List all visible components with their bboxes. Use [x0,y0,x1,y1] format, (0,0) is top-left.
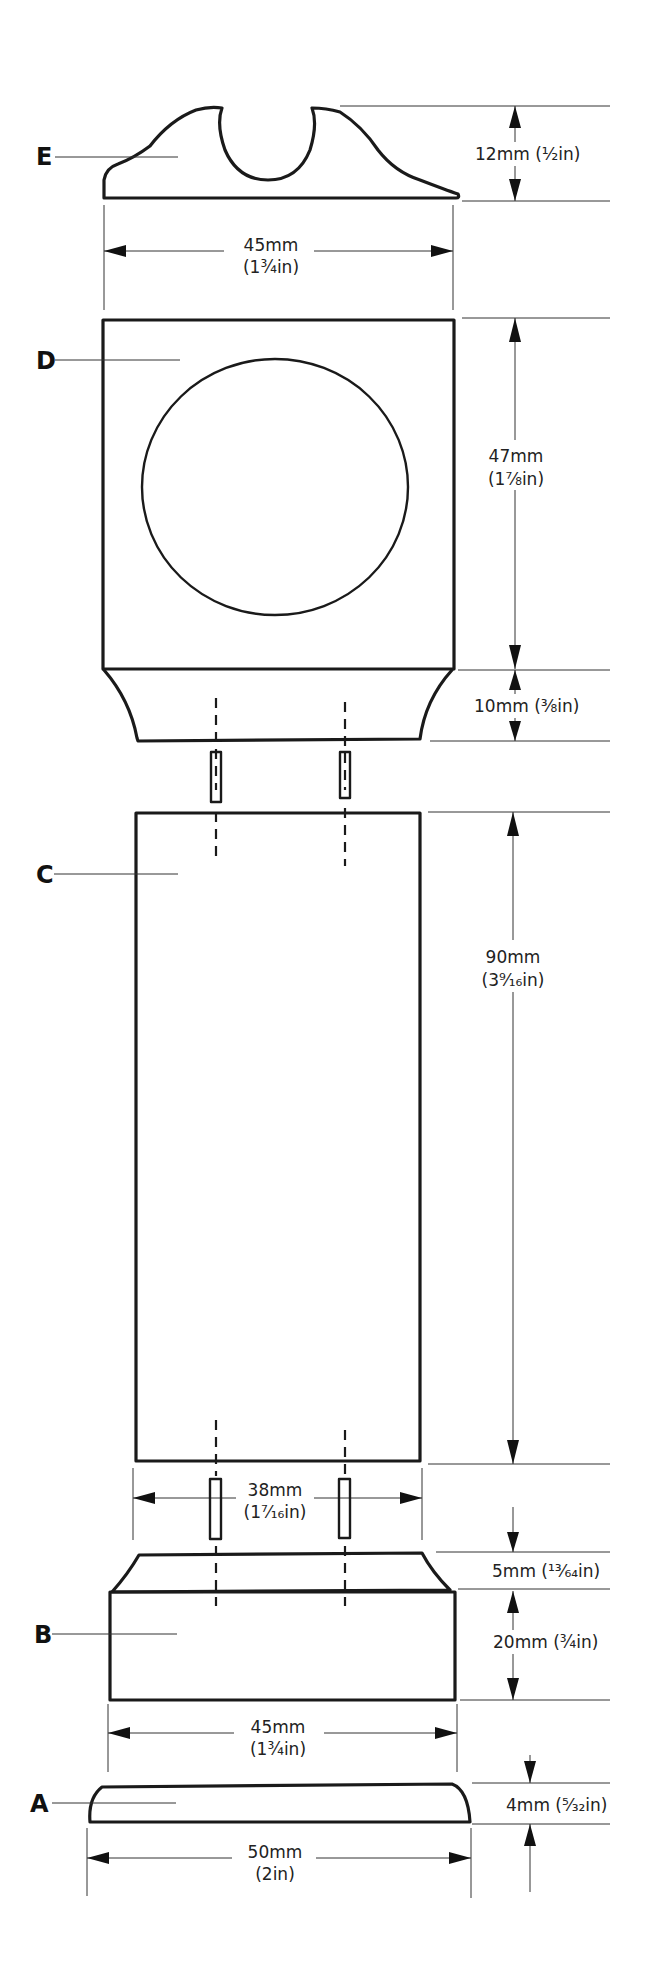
lower-dowels: 38mm (1⁷⁄₁₆in) [210,1420,350,1606]
part-d-block [103,320,454,669]
dim-b-width-in: (1¾in) [250,1739,306,1759]
part-d-flared-base [104,670,452,741]
part-d-circle-face [142,359,408,615]
part-d: D 47mm (1⅞in) 10mm (⅜in) [36,318,610,741]
dim-c-height-in: (3⁹⁄₁₆in) [482,970,545,990]
dim-b-width-mm: 45mm [251,1717,306,1737]
arrow-left-icon [104,245,126,257]
arrow-up-icon [507,812,519,836]
dowel-right-lower [339,1479,350,1538]
part-a: A 4mm (⁵⁄₃₂in) 50mm (2in) [30,1755,610,1898]
part-label-b: B [34,1621,52,1649]
arrow-up-icon [509,670,521,690]
part-c: C 90mm (3⁹⁄₁₆in) [36,812,610,1540]
arrow-down-icon [507,1440,519,1464]
part-e: E 12mm (½in) 45mm (1¾in) [36,106,610,310]
part-label-e: E [36,143,52,171]
part-label-d: D [36,347,56,375]
part-c-column [136,813,420,1461]
arrow-left-icon [133,1492,155,1504]
dim-d-height-in: (1⅞in) [488,469,544,489]
dim-b-height: 20mm (¾in) [493,1632,598,1652]
dim-e-width-mm: 45mm [244,235,299,255]
dim-d-height-mm: 47mm [489,446,544,466]
arrow-up-icon [509,318,521,342]
dim-d-base-height: 10mm (⅜in) [474,696,579,716]
arrow-down-icon [509,179,521,201]
arrow-right-icon [431,245,453,257]
part-label-c: C [36,861,54,889]
dim-c-width-in: (1⁷⁄₁₆in) [244,1502,307,1522]
assembly-diagram: E 12mm (½in) 45mm (1¾in) D 47mm (1⅞in) [0,0,646,1982]
arrow-right-icon [400,1492,422,1504]
arrow-down-icon [507,1532,519,1552]
part-e-outline [104,107,459,198]
dim-a-width-in: (2in) [255,1864,295,1884]
arrow-down-icon [524,1761,536,1783]
arrow-down-icon [507,1678,519,1700]
dim-c-width-mm: 38mm [248,1480,303,1500]
arrow-down-icon [509,721,521,741]
dim-a-height: 4mm (⁵⁄₃₂in) [506,1795,607,1815]
part-b-chamfer [112,1553,450,1592]
arrow-right-icon [435,1727,457,1739]
dim-a-width-mm: 50mm [248,1842,303,1862]
dowel-left-upper [211,752,221,802]
dim-e-height: 12mm (½in) [475,144,580,164]
arrow-left-icon [108,1727,130,1739]
arrow-up-icon [524,1824,536,1846]
part-b-block [110,1592,455,1700]
part-label-a: A [30,1790,49,1818]
arrow-down-icon [509,645,521,669]
dim-e-width-in: (1¾in) [243,257,299,277]
arrow-up-icon [507,1591,519,1613]
arrow-right-icon [449,1852,471,1864]
dim-b-chamfer-height: 5mm (¹³⁄₆₄in) [492,1561,600,1581]
upper-dowels [211,698,350,866]
dim-c-height-mm: 90mm [486,947,541,967]
arrow-left-icon [87,1852,109,1864]
dowel-left-lower [210,1479,221,1539]
arrow-up-icon [509,106,521,128]
part-b: B 5mm (¹³⁄₆₄in) 20mm (¾in) 45mm (1¾in) [34,1507,616,1772]
